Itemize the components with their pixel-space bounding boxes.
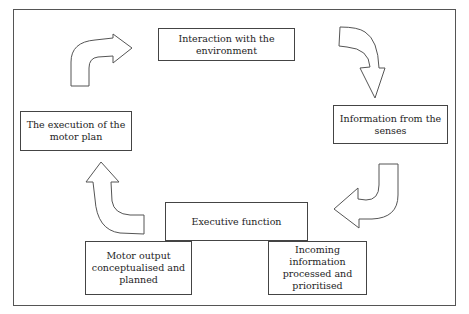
node-interaction: Interaction with the environment — [158, 28, 295, 61]
curved-arrow-right-icon — [71, 34, 132, 86]
node-incoming-label: Incoming information processed and prior… — [273, 244, 362, 292]
curved-arrow-left-icon — [334, 164, 398, 228]
curved-arrow-down-icon — [339, 27, 385, 98]
node-execution: The execution of the motor plan — [20, 111, 132, 151]
node-senses: Information from the senses — [333, 105, 448, 144]
node-executive-function: Executive function — [165, 202, 308, 241]
node-senses-label: Information from the senses — [338, 113, 443, 137]
curved-arrow-up-icon — [86, 162, 144, 234]
node-interaction-label: Interaction with the environment — [163, 33, 290, 57]
node-execution-label: The execution of the motor plan — [25, 119, 127, 143]
node-motor-output: Motor output conceptualised and planned — [85, 241, 192, 295]
node-executive-function-label: Executive function — [192, 216, 282, 228]
node-incoming: Incoming information processed and prior… — [268, 241, 367, 295]
node-motor-output-label: Motor output conceptualised and planned — [90, 250, 187, 286]
